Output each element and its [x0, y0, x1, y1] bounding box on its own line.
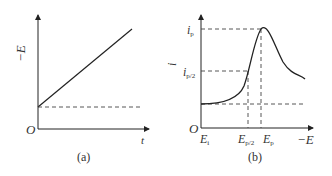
- panel-b-x-axis-label: −E: [297, 133, 314, 146]
- half-peak-current-label: ip/2: [183, 66, 195, 80]
- panel-b-y-axis-label: i: [166, 63, 178, 66]
- peak-current-label: ip: [187, 24, 194, 38]
- panel-b-origin-label: O: [189, 122, 198, 135]
- panel-a-sweep-line: [38, 29, 132, 107]
- half-peak-potential-label: Ep/2: [238, 133, 254, 147]
- panel-b-plot: [201, 15, 313, 128]
- panel-a-plot: [38, 15, 149, 129]
- peak-potential-label: Ep: [263, 133, 274, 147]
- panel-a-caption: (a): [77, 151, 90, 163]
- panel-b-caption: (b): [248, 151, 262, 163]
- initial-potential-label: Ei: [200, 133, 209, 147]
- panel-a-x-axis-label: t: [141, 135, 144, 146]
- panel-a-origin-label: O: [26, 123, 35, 136]
- figure-canvas: [0, 0, 332, 176]
- panel-a-y-axis-label: −E: [14, 45, 27, 62]
- voltammogram-curve: [201, 28, 305, 104]
